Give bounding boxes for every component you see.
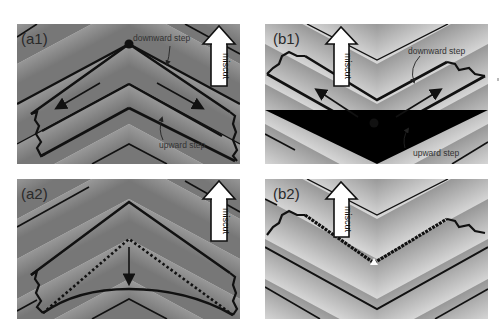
- panel-a1: downward step upward step miscut (a1): [17, 24, 240, 164]
- panel-a2-drawing: miscut (a2): [17, 179, 240, 319]
- panel-b1-drawing: downward step upward step miscut (b1): [265, 24, 488, 164]
- miscut-label: miscut: [221, 208, 231, 235]
- annotation-downward-step: downward step: [408, 46, 465, 56]
- panel-b2-drawing: miscut (b2): [265, 179, 488, 319]
- panel-b1: downward step upward step miscut (b1): [265, 24, 488, 164]
- annotation-upward-step: upward step: [413, 148, 460, 158]
- panel-a1-drawing: downward step upward step miscut (a1): [17, 24, 240, 164]
- miscut-label: miscut: [343, 53, 353, 80]
- nucleation-dot: [370, 119, 379, 128]
- panel-label-b1: (b1): [273, 30, 300, 47]
- annotation-upward-step: upward step: [159, 140, 206, 150]
- miscut-label: miscut: [343, 206, 353, 233]
- panel-b2: miscut (b2): [265, 179, 488, 319]
- stray-mark: [497, 78, 499, 81]
- panel-label-b2: (b2): [273, 185, 300, 202]
- panel-label-a2: (a2): [21, 185, 48, 202]
- panel-label-a1: (a1): [21, 30, 48, 47]
- panel-a2: miscut (a2): [17, 179, 240, 319]
- miscut-label: miscut: [221, 53, 231, 80]
- annotation-downward-step: downward step: [133, 33, 190, 43]
